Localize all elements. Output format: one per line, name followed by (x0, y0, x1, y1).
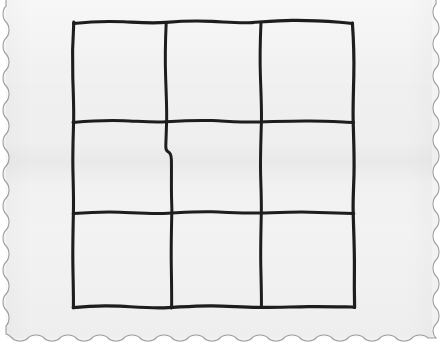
grid-line-right (352, 23, 354, 307)
cell-r1c3[interactable] (263, 25, 352, 120)
grid-line-horizontal-2 (73, 212, 354, 214)
cell-r3c3[interactable] (263, 215, 352, 306)
cell-r3c1[interactable] (75, 215, 169, 306)
grid-line-top (74, 20, 353, 23)
cell-r1c1[interactable] (75, 25, 164, 120)
cell-r1c2[interactable] (168, 25, 259, 120)
cell-r2c2[interactable] (168, 124, 259, 211)
grid-line-vertical-2 (260, 22, 261, 307)
cell-r3c2[interactable] (173, 215, 259, 306)
grid-line-horizontal-1 (73, 120, 354, 122)
screenshot-canvas (0, 0, 442, 348)
grid-line-left (73, 22, 74, 308)
cell-r2c1[interactable] (75, 124, 164, 211)
cell-r2c3[interactable] (263, 124, 352, 211)
grid-line-bottom (73, 306, 354, 308)
